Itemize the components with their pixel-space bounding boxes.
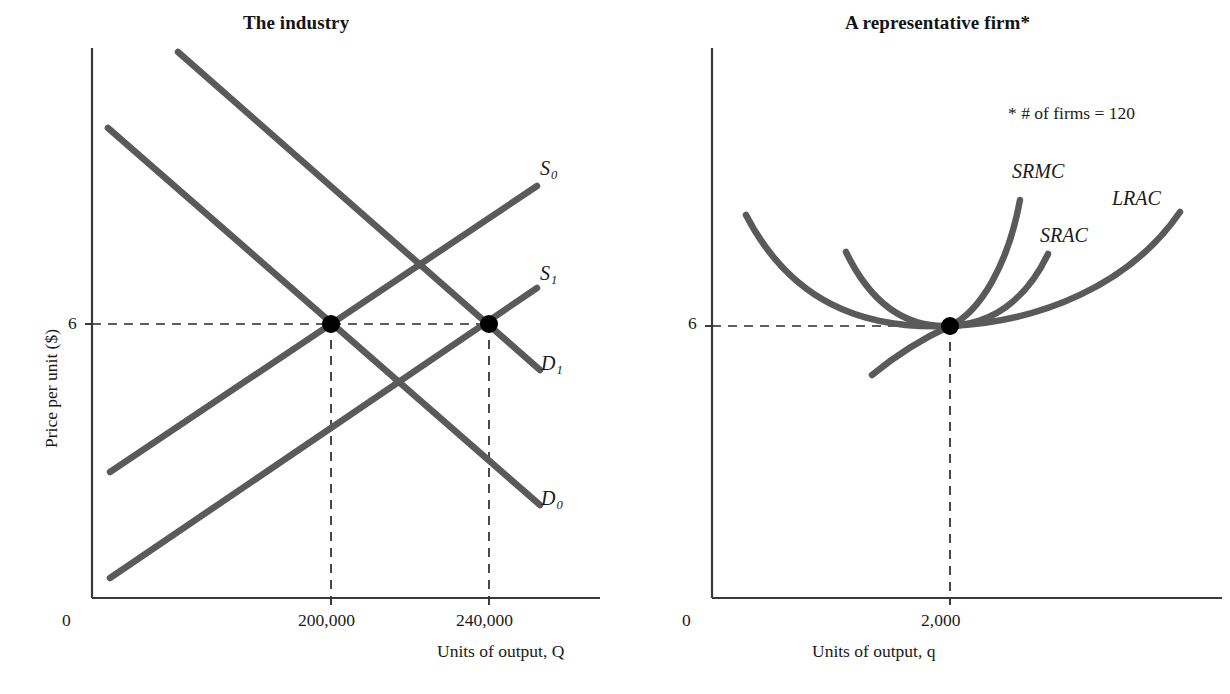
equilibrium-point-initial	[322, 315, 340, 333]
firm-panel-title: A representative firm*	[845, 12, 1030, 34]
firm-panel-graphics	[705, 48, 1222, 605]
industry-origin-label: 0	[62, 610, 71, 631]
demand-curve-d0-label: D0	[541, 487, 562, 510]
lrac-curve-label: LRAC	[1112, 187, 1161, 210]
srac-curve-label: SRAC	[1040, 224, 1088, 247]
industry-y-axis-label: Price per unit ($)	[41, 309, 62, 469]
industry-xtick-label-200000: 200,000	[298, 610, 355, 631]
firm-equilibrium-point	[941, 317, 959, 335]
equilibrium-point-new	[480, 315, 498, 333]
firm-x-axis-label: Units of output, q	[812, 641, 935, 662]
srmc-curve-label: SRMC	[1012, 160, 1064, 183]
firm-ytick-label-6: 6	[688, 313, 697, 334]
economics-figure: The industry A representative firm* * # …	[0, 0, 1230, 694]
supply-s0-letter: S	[540, 157, 550, 179]
industry-xtick-label-240000: 240,000	[456, 610, 513, 631]
lrac-curve	[746, 212, 1180, 326]
supply-s1-letter: S	[540, 262, 550, 284]
demand-d0-subscript: 0	[556, 498, 562, 512]
industry-ytick-label-6: 6	[68, 313, 77, 334]
demand-curve-d1-label: D1	[541, 352, 562, 375]
firm-xtick-label-2000: 2,000	[921, 610, 960, 631]
industry-panel-title: The industry	[243, 12, 349, 34]
demand-d1-subscript: 1	[556, 363, 562, 377]
industry-panel-graphics	[85, 48, 600, 605]
srmc-curve	[872, 200, 1020, 375]
firm-origin-label: 0	[682, 610, 691, 631]
supply-s1-subscript: 1	[551, 273, 557, 287]
supply-curve-s0-label: S0	[540, 157, 556, 180]
firm-count-footnote: * # of firms = 120	[1008, 103, 1135, 124]
supply-s0-subscript: 0	[551, 168, 557, 182]
industry-x-axis-label: Units of output, Q	[437, 641, 564, 662]
demand-d1-letter: D	[541, 352, 555, 374]
supply-curve-s1-label: S1	[540, 262, 556, 285]
demand-d0-letter: D	[541, 487, 555, 509]
